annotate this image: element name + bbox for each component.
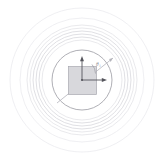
origin-dot bbox=[81, 79, 83, 81]
vector-diagram-canvas: θ i bbox=[0, 0, 164, 160]
angle-subscript-label: i bbox=[100, 64, 101, 68]
angle-symbol-label: θ bbox=[96, 61, 99, 67]
figure-root: θ i bbox=[0, 0, 164, 160]
